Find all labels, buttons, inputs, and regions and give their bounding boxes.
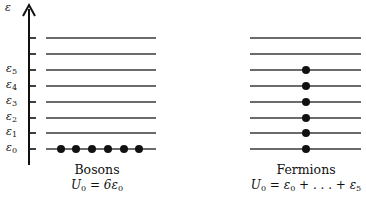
boson-particle (120, 145, 128, 153)
tick-label-epsilon-0: ε0 (6, 142, 17, 155)
axis-ticks (29, 38, 36, 149)
fermions-title: Fermions (256, 164, 356, 177)
bosons-title: Bosons (47, 164, 147, 177)
fermion-particle (302, 66, 310, 74)
fermion-particle (302, 114, 310, 122)
tick-label-epsilon-1: ε1 (6, 126, 17, 139)
tick-label-epsilon-2: ε2 (6, 111, 17, 124)
boson-levels (46, 38, 156, 149)
fermion-particle (302, 129, 310, 137)
tick-label-epsilon-3: ε3 (6, 95, 17, 108)
fermion-particle (302, 82, 310, 90)
axis-label: ε (5, 2, 11, 13)
bosons-formula: U0 = 6ε0 (47, 179, 147, 193)
boson-particle (104, 145, 112, 153)
tick-label-epsilon-5: ε5 (6, 63, 17, 76)
fermion-particle (302, 98, 310, 106)
fermions-formula: U0 = ε0 + . . . + ε5 (236, 179, 366, 193)
boson-particle (72, 145, 80, 153)
boson-particle (88, 145, 96, 153)
boson-particle (57, 145, 65, 153)
tick-label-epsilon-4: ε4 (6, 79, 17, 92)
fermion-particles (302, 66, 310, 153)
boson-particle (135, 145, 143, 153)
fermion-particle (302, 145, 310, 153)
